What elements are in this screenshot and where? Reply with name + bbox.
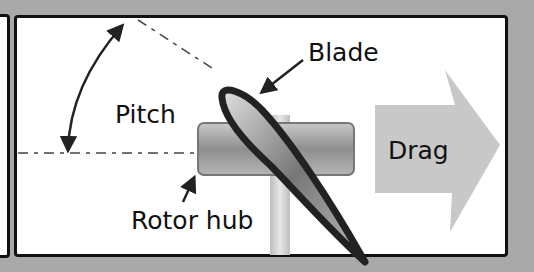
pitch-arc-arrow xyxy=(68,26,122,150)
pitch-label: Pitch xyxy=(115,100,176,129)
diagram-canvas xyxy=(0,0,534,272)
pitch-reference-line xyxy=(138,20,215,70)
rotor-hub-label: Rotor hub xyxy=(131,206,253,235)
blade-label: Blade xyxy=(308,38,379,67)
blade-pointer-arrow xyxy=(262,60,303,92)
rotor-hub-pointer-arrow xyxy=(183,178,194,202)
drag-label: Drag xyxy=(388,136,449,165)
